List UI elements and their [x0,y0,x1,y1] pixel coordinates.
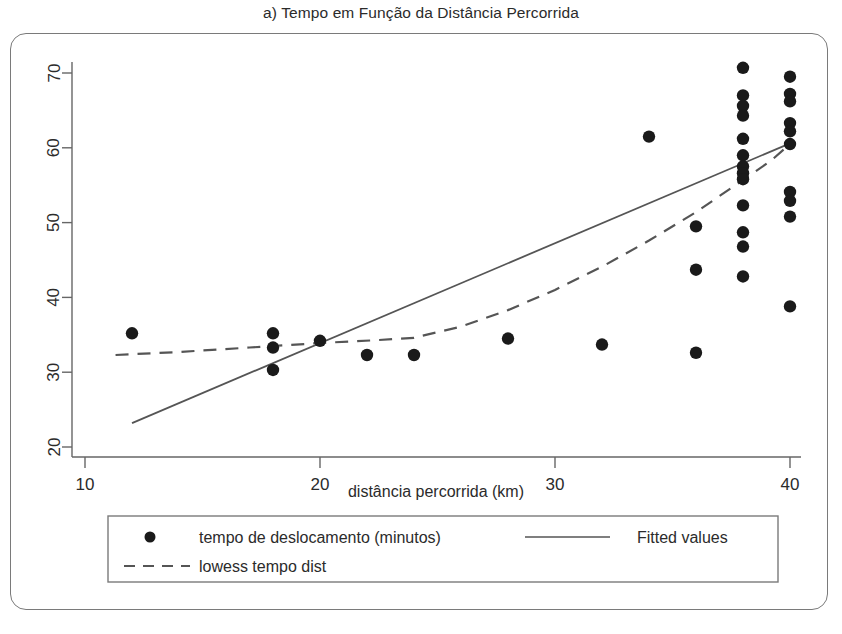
data-point [784,300,796,312]
data-point [690,264,702,276]
x-tick-label: 30 [546,475,565,494]
data-point [784,138,796,150]
y-tick-label: 50 [45,213,64,232]
data-point [361,349,373,361]
data-point [737,226,749,238]
data-point [784,210,796,222]
legend-box: tempo de deslocamento (minutos) Fitted v… [108,516,778,582]
data-point [267,327,279,339]
lowess-line [116,144,790,355]
data-point [784,125,796,137]
y-tick-label: 40 [45,288,64,307]
data-point [737,62,749,74]
legend-marker-icon [145,532,156,543]
data-point [784,195,796,207]
data-point [314,335,326,347]
data-point [737,109,749,121]
data-point [126,327,138,339]
scatter-points [126,62,796,377]
scatter-plot-figure: 203040506070 10203040 distância percorri… [0,0,842,634]
x-tick-label: 40 [781,475,800,494]
y-tick-label: 30 [45,363,64,382]
data-point [737,199,749,211]
data-point [267,341,279,353]
data-point [502,332,514,344]
legend-label-points: tempo de deslocamento (minutos) [199,529,441,546]
data-point [408,349,420,361]
data-point [267,364,279,376]
data-point [643,130,655,142]
x-tick-label: 20 [311,475,330,494]
data-point [784,71,796,83]
data-point [737,240,749,252]
fitted-values-polyline [132,143,790,423]
data-point [690,347,702,359]
lowess-polyline [116,144,790,355]
y-axis-ticks: 203040506070 [45,64,73,457]
chart-page: a) Tempo em Função da Distância Percorri… [0,0,842,634]
legend-label-lowess: lowess tempo dist [199,558,327,575]
data-point [737,270,749,282]
data-point [690,220,702,232]
x-tick-label: 10 [76,475,95,494]
y-tick-label: 70 [45,64,64,83]
axes-lines [72,62,801,457]
data-point [784,95,796,107]
data-point [737,149,749,161]
y-tick-label: 20 [45,438,64,457]
data-point [596,338,608,350]
legend-label-fitted: Fitted values [637,529,728,546]
data-point [737,133,749,145]
x-axis-title: distância percorrida (km) [348,483,524,500]
y-tick-label: 60 [45,138,64,157]
fitted-values-line [132,143,790,423]
data-point [737,173,749,185]
